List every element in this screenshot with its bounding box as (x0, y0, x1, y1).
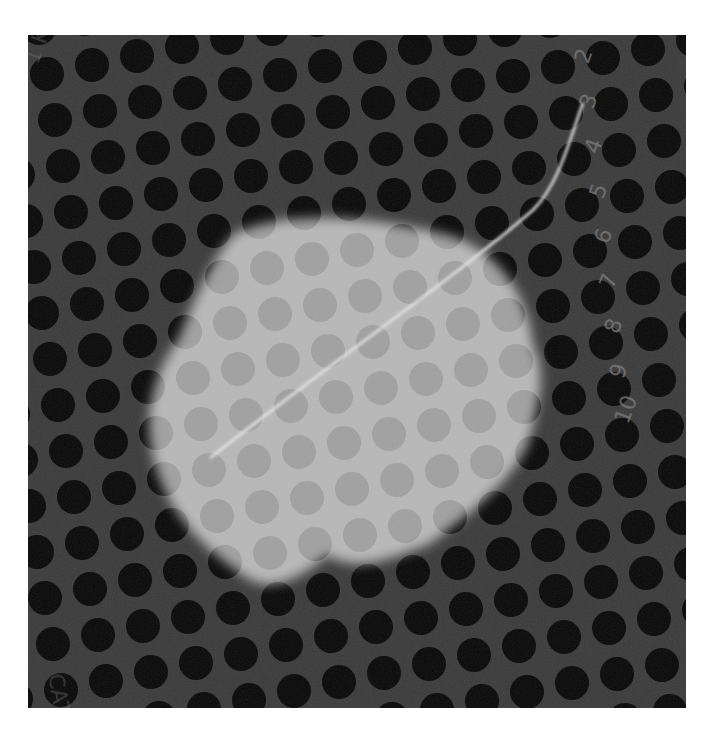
film-grain (28, 35, 686, 708)
radiograph-image: 2345678910 1 K 3 L CAT NO (28, 35, 686, 708)
radiograph-frame: 2345678910 1 K 3 L CAT NO (28, 35, 686, 708)
